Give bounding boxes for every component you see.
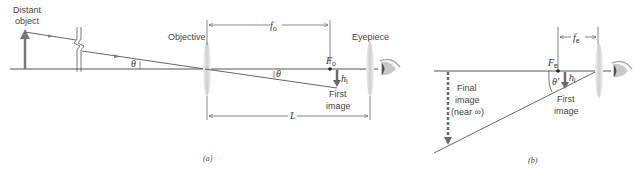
panel-a: Distant object θ Objective θ fo Fo xyxy=(10,5,400,163)
hi-label-b: hi xyxy=(569,72,576,84)
caption-b: (b) xyxy=(528,156,538,165)
distant-object-label-2: object xyxy=(15,16,40,26)
eyepiece-label: Eyepiece xyxy=(352,32,389,42)
angle-theta-objective: θ xyxy=(276,68,281,79)
eyepiece-lens-a xyxy=(366,42,374,96)
refracted-ray-a xyxy=(205,69,337,88)
final-image-label-2: image xyxy=(455,95,480,105)
fo-point-label: Fo xyxy=(325,55,336,67)
first-image-label-a-2: image xyxy=(326,101,351,111)
break-symbol xyxy=(74,27,84,72)
distant-object-arrow xyxy=(20,29,30,69)
distant-object-label-1: Distant xyxy=(13,5,42,15)
first-image-label-b-2: image xyxy=(554,106,579,116)
hi-label-a: hi xyxy=(341,73,348,85)
telescope-diagram: Distant object θ Objective θ fo Fo xyxy=(0,0,641,174)
first-image-arrow-a xyxy=(333,70,341,87)
fe-point-label: Fe xyxy=(547,57,558,69)
focal-point-fo xyxy=(328,67,332,71)
eye-icon-a xyxy=(380,59,400,75)
objective-label: Objective xyxy=(168,32,206,42)
fe-label: fe xyxy=(573,32,580,44)
focal-point-fe xyxy=(556,69,560,73)
eyepiece-lens-b xyxy=(595,44,603,98)
incoming-ray-2 xyxy=(82,51,205,69)
first-image-label-b-1: First xyxy=(557,94,575,104)
fo-label: fo xyxy=(270,20,277,32)
first-image-arrow-b xyxy=(561,72,569,89)
caption-a: (a) xyxy=(203,154,213,163)
final-image-label-3: (near ∞) xyxy=(451,107,484,117)
angle-theta-prime: θ′ xyxy=(552,76,560,87)
angle-theta-object: θ xyxy=(131,58,136,69)
final-image-label-1: Final xyxy=(457,83,477,93)
first-image-label-a-1: First xyxy=(329,89,347,99)
l-label: L xyxy=(289,110,296,121)
panel-b: Final image (near ∞) θ′ fe Fe hi First i… xyxy=(434,27,632,165)
eye-icon-b xyxy=(612,61,632,77)
